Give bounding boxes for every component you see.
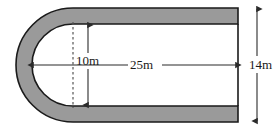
outer-height-label: 14m (249, 57, 272, 72)
figure-root: 10m 25m 14m (0, 0, 280, 130)
straight-length-label: 25m (130, 57, 153, 72)
inner-height-label: 10m (76, 53, 99, 68)
u-shape-track-svg: 10m 25m 14m (0, 0, 280, 130)
